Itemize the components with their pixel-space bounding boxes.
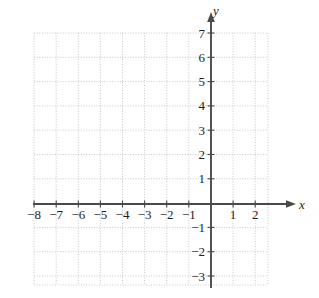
y-tick-label: −3 (181, 270, 205, 283)
x-tick-label: −7 (44, 208, 68, 221)
y-axis (207, 12, 215, 288)
y-tick-label: 5 (186, 75, 205, 88)
y-tick-label: 7 (186, 27, 205, 40)
coordinate-plane-svg (0, 0, 319, 298)
x-tick-label: 2 (246, 208, 264, 221)
x-tick-label: −3 (133, 208, 157, 221)
x-tick-label: −6 (66, 208, 90, 221)
y-tick-label: 2 (186, 148, 205, 161)
y-tick-label: −1 (181, 221, 205, 234)
x-tick-label: −8 (22, 208, 46, 221)
grid-lines (34, 33, 268, 285)
x-tick-label: 1 (224, 208, 242, 221)
y-tick-label: −2 (181, 245, 205, 258)
y-tick-label: 4 (186, 99, 205, 112)
coordinate-plane-figure: −8 −7 −6 −5 −4 −3 −2 −1 1 2 7 6 5 4 3 2 … (0, 0, 319, 298)
x-axis-arrow-icon (286, 200, 296, 208)
x-tick-label: −5 (88, 208, 112, 221)
y-tick-label: 1 (186, 172, 205, 185)
x-tick-label: −4 (111, 208, 135, 221)
y-tick-label: 6 (186, 51, 205, 64)
y-axis-label: y (213, 4, 219, 17)
x-tick-label: −2 (155, 208, 179, 221)
y-tick-label: 3 (186, 124, 205, 137)
x-axis-label: x (299, 198, 305, 211)
